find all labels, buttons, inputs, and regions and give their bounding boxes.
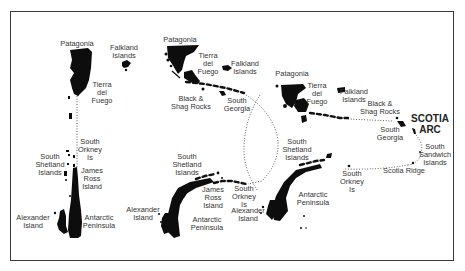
alexander-island-landmass [57,209,68,234]
label-black-shag-3: Black & Shag Rocks [360,100,400,116]
antarctic-peninsula-landmass [68,167,82,238]
label-antarctic-1: Antarctic Peninsula [83,214,115,230]
label-scotia-arc: SCOTIA ARC [411,113,449,135]
label-james-ross-2: James Ross Island [202,186,224,210]
label-south-shetland-3: South Shetland Islands [282,138,311,162]
label-tierra-1: Tierra del Fuego [92,81,113,105]
label-tierra-2: Tierra del Fuego [198,52,219,76]
label-falkland-2: Falkland Islands [231,60,259,76]
label-south-shetland-1: South Shetland Islands [35,153,64,177]
patagonia-landmass-2 [167,45,199,74]
label-south-shetland-2: South Shetland Islands [172,153,201,177]
label-patagonia-2: Patagonia [163,36,196,44]
label-scotia-ridge: Scotia Ridge [383,167,425,175]
label-south-georgia-2: South Georgia [224,97,250,113]
label-black-shag-2: Black & Shag Rocks [171,95,211,111]
label-falkland-1: Falkland Islands [110,44,138,60]
falkland-islands [122,60,131,68]
label-antarctic-2: Antarctic Peninsula [191,216,223,232]
label-patagonia-1: Patagonia [60,40,93,48]
label-alexander-2b: Alexander Island [231,207,264,223]
label-alexander-2: Alexander Island [126,206,159,222]
label-south-orkney-3: South Orkney Is [340,170,364,194]
label-south-georgia-3: South Georgia [377,126,403,142]
label-tierra-3: Tierra del Fuego [307,82,328,106]
label-south-orkney-1: South Orkney Is [78,138,102,162]
label-patagonia-3: Patagonia [275,70,308,78]
label-south-sandwich-3: South Sandwich Islands [419,143,451,167]
label-james-ross-1: James Ross Island [81,167,103,191]
label-alexander-1: Alexander Island [16,214,49,230]
label-antarctic-3: Antarctic Peninsula [297,191,329,207]
